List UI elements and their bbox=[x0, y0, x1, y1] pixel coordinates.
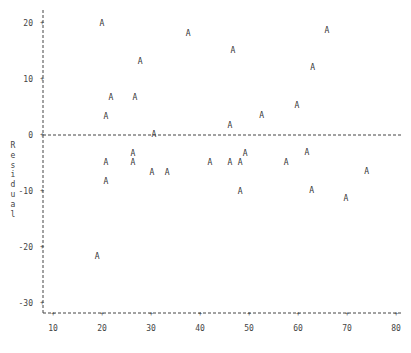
y-axis-label-char: s bbox=[9, 161, 17, 171]
data-point-marker: A bbox=[152, 130, 157, 139]
data-point-marker: A bbox=[284, 158, 289, 167]
y-tick-label: 0 bbox=[28, 131, 33, 140]
y-tick-mark: + bbox=[40, 187, 44, 195]
data-point-marker: A bbox=[309, 186, 314, 195]
data-point-marker: A bbox=[104, 112, 109, 121]
y-axis-label-char: l bbox=[9, 210, 17, 220]
data-point-marker: A bbox=[138, 57, 143, 66]
data-point-marker: A bbox=[243, 149, 248, 158]
scatter-plot: +20+10+0+-10+-20+-30+10+20+30+40+50+60+7… bbox=[0, 0, 411, 353]
data-point-marker: A bbox=[186, 29, 191, 38]
data-point-marker: A bbox=[364, 167, 369, 176]
data-point-marker: A bbox=[230, 46, 235, 55]
y-tick-mark: + bbox=[40, 75, 44, 83]
y-tick-label: 20 bbox=[23, 19, 33, 28]
data-point-marker: A bbox=[130, 158, 135, 167]
data-point-marker: A bbox=[227, 121, 232, 130]
data-point-marker: A bbox=[344, 194, 349, 203]
x-tick-label: 70 bbox=[342, 324, 352, 333]
data-point-marker: A bbox=[130, 149, 135, 158]
data-point-marker: A bbox=[259, 111, 264, 120]
data-point-marker: A bbox=[165, 168, 170, 177]
axes: +20+10+0+-10+-20+-30+10+20+30+40+50+60+7… bbox=[19, 10, 402, 333]
x-tick-label: 40 bbox=[195, 324, 205, 333]
data-point-marker: A bbox=[304, 148, 309, 157]
y-tick-mark: + bbox=[40, 299, 44, 307]
y-axis-label-char: d bbox=[9, 180, 17, 190]
x-tick-mark: + bbox=[247, 310, 251, 318]
x-tick-mark: + bbox=[149, 310, 153, 318]
y-axis-label-char: a bbox=[9, 200, 17, 210]
data-point-marker: A bbox=[104, 177, 109, 186]
y-tick-mark: + bbox=[40, 131, 44, 139]
y-tick-mark: + bbox=[40, 19, 44, 27]
data-point-marker: A bbox=[108, 93, 113, 102]
y-axis-label: Residual bbox=[9, 141, 17, 219]
data-point-marker: A bbox=[104, 158, 109, 167]
x-tick-mark: + bbox=[198, 310, 202, 318]
data-point-marker: A bbox=[95, 252, 100, 261]
x-tick-label: 60 bbox=[293, 324, 303, 333]
y-axis-label-char: i bbox=[9, 170, 17, 180]
data-points: AAAAAAAAAAAAAAAAAAAAAAAAAAAAAA bbox=[95, 19, 370, 261]
data-point-marker: A bbox=[324, 26, 329, 35]
y-tick-mark: + bbox=[40, 243, 44, 251]
x-tick-label: 50 bbox=[244, 324, 254, 333]
y-tick-label: 10 bbox=[23, 75, 33, 84]
data-point-marker: A bbox=[100, 19, 105, 28]
data-point-marker: A bbox=[238, 158, 243, 167]
y-axis-label-char: R bbox=[9, 141, 17, 151]
x-tick-label: 10 bbox=[48, 324, 58, 333]
x-tick-mark: + bbox=[345, 310, 349, 318]
x-tick-label: 20 bbox=[97, 324, 107, 333]
y-tick-label: -10 bbox=[19, 187, 34, 196]
data-point-marker: A bbox=[227, 158, 232, 167]
y-axis-label-char: e bbox=[9, 151, 17, 161]
data-point-marker: A bbox=[295, 101, 300, 110]
x-tick-mark: + bbox=[51, 310, 55, 318]
x-tick-mark: + bbox=[296, 310, 300, 318]
data-point-marker: A bbox=[207, 158, 212, 167]
x-tick-mark: + bbox=[394, 310, 398, 318]
x-tick-label: 30 bbox=[146, 324, 156, 333]
data-point-marker: A bbox=[150, 168, 155, 177]
y-tick-label: -30 bbox=[19, 299, 34, 308]
x-tick-label: 80 bbox=[391, 324, 401, 333]
y-tick-label: -20 bbox=[19, 243, 34, 252]
y-axis-label-char: u bbox=[9, 190, 17, 200]
data-point-marker: A bbox=[238, 187, 243, 196]
data-point-marker: A bbox=[310, 63, 315, 72]
x-tick-mark: + bbox=[100, 310, 104, 318]
data-point-marker: A bbox=[132, 93, 137, 102]
